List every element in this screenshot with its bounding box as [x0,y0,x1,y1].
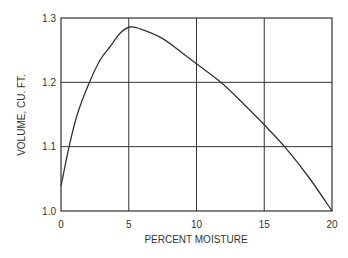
chart: 05101520 1.01.11.21.3 PERCENT MOISTURE V… [0,0,348,258]
y-tick-label: 1.2 [42,77,56,88]
y-axis-label: VOLUME, CU. FT. [16,74,27,156]
y-tick-label: 1.1 [42,141,56,152]
x-axis-label: PERCENT MOISTURE [144,234,247,245]
x-tick-label: 0 [58,219,64,230]
x-tick-label: 10 [191,219,203,230]
x-tick-labels: 05101520 [58,219,338,230]
grid-lines [61,18,332,211]
x-tick-label: 20 [326,219,338,230]
x-tick-label: 15 [259,219,271,230]
x-tick-label: 5 [126,219,132,230]
y-tick-label: 1.3 [42,13,56,24]
y-tick-labels: 1.01.11.21.3 [42,13,56,217]
y-tick-label: 1.0 [42,206,56,217]
